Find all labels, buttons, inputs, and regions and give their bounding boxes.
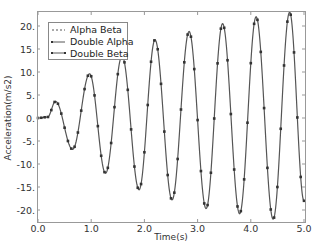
svg-text:5.: 5. — [26, 90, 35, 101]
svg-text:1.0: 1.0 — [84, 223, 99, 234]
svg-text:20.: 20. — [20, 21, 35, 32]
data-marker — [160, 83, 163, 86]
x-axis-label: Time(s) — [153, 232, 188, 242]
data-marker — [240, 210, 243, 213]
data-marker — [269, 208, 272, 211]
data-marker — [117, 73, 120, 76]
data-marker — [273, 216, 276, 219]
data-marker — [210, 171, 213, 174]
legend-marker-double-beta-right — [64, 52, 66, 54]
data-marker — [77, 131, 80, 134]
data-marker — [276, 186, 279, 189]
data-marker — [259, 51, 262, 54]
data-marker — [203, 202, 206, 205]
legend-item-double-alpha: Double Alpha — [70, 36, 134, 47]
y-axis-label: Acceleration(m/s2) — [3, 75, 13, 160]
data-marker — [153, 39, 156, 42]
data-marker — [186, 33, 189, 36]
data-marker — [60, 112, 63, 115]
svg-text:2.0: 2.0 — [137, 223, 152, 234]
data-marker — [97, 125, 100, 128]
data-marker — [113, 106, 116, 109]
data-marker — [73, 145, 76, 148]
data-marker — [40, 116, 43, 119]
svg-text:4.0: 4.0 — [243, 223, 258, 234]
data-marker — [100, 154, 103, 157]
data-marker — [226, 59, 229, 62]
data-marker — [163, 130, 166, 133]
data-marker — [93, 94, 96, 97]
data-marker — [253, 23, 256, 26]
svg-text:0.: 0. — [26, 113, 35, 124]
data-marker — [123, 61, 126, 64]
data-marker — [87, 74, 90, 77]
svg-text:15.: 15. — [20, 44, 35, 55]
data-marker — [216, 62, 219, 65]
data-marker — [47, 116, 50, 119]
data-marker — [103, 171, 106, 174]
data-marker — [233, 168, 236, 171]
data-marker — [110, 142, 113, 145]
data-marker — [173, 191, 176, 194]
data-marker — [256, 19, 259, 22]
data-marker — [283, 64, 286, 67]
data-marker — [90, 75, 93, 78]
legend-marker-double-beta-left — [51, 52, 53, 54]
svg-text:-15.: -15. — [16, 182, 35, 193]
data-marker — [213, 117, 216, 120]
data-marker — [53, 101, 56, 104]
data-marker — [63, 126, 66, 129]
data-marker — [263, 107, 266, 110]
data-marker — [220, 27, 223, 30]
data-marker — [289, 13, 292, 16]
data-marker — [223, 26, 226, 29]
data-marker — [230, 113, 233, 116]
data-marker — [170, 197, 173, 200]
data-marker — [299, 176, 302, 179]
data-marker — [200, 170, 203, 173]
data-marker — [136, 186, 139, 189]
legend-marker-double-alpha — [51, 41, 53, 43]
data-marker — [107, 167, 110, 170]
data-marker — [156, 48, 159, 51]
svg-text:5.0: 5.0 — [296, 223, 311, 234]
data-marker — [250, 62, 253, 65]
svg-text:-5.: -5. — [23, 136, 36, 147]
data-marker — [303, 200, 306, 203]
data-marker — [80, 109, 83, 112]
data-marker — [206, 204, 209, 207]
svg-text:-20.: -20. — [16, 205, 35, 216]
data-marker — [286, 20, 289, 23]
data-marker — [126, 89, 129, 92]
data-marker — [176, 158, 179, 161]
data-marker — [193, 68, 196, 71]
data-marker — [246, 121, 249, 124]
svg-text:0.0: 0.0 — [30, 223, 45, 234]
data-marker — [183, 61, 186, 64]
data-marker — [190, 35, 193, 38]
data-marker — [296, 116, 299, 119]
legend-item-alpha-beta: Alpha Beta — [70, 24, 122, 35]
data-marker — [143, 151, 146, 154]
data-marker — [83, 88, 86, 91]
legend: Alpha Beta Double Alpha Double Beta — [49, 23, 134, 60]
data-marker — [43, 116, 46, 119]
data-marker — [266, 167, 269, 170]
legend-item-double-beta: Double Beta — [70, 48, 129, 59]
svg-text:10.: 10. — [20, 67, 35, 78]
data-marker — [150, 60, 153, 63]
data-marker — [133, 165, 136, 168]
data-marker — [243, 178, 246, 181]
data-marker — [130, 128, 133, 131]
acceleration-chart: 0.01.02.03.04.05.0 20.15.10.5.0.-5.-10.-… — [0, 0, 317, 250]
data-marker — [70, 147, 73, 150]
data-marker — [146, 104, 149, 107]
data-marker — [67, 140, 70, 143]
svg-text:3.0: 3.0 — [190, 223, 205, 234]
data-marker — [279, 127, 282, 130]
data-marker — [166, 174, 169, 177]
data-marker — [236, 205, 239, 208]
data-marker — [50, 109, 53, 112]
data-marker — [293, 51, 296, 54]
data-marker — [57, 102, 60, 105]
